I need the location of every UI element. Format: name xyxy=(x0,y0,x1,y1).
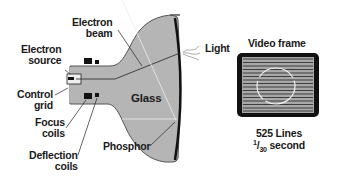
focus-coil-bottom xyxy=(84,93,92,99)
deflection-coil-top xyxy=(95,60,99,64)
deflection-coil-bottom xyxy=(95,93,99,97)
label-line: coils xyxy=(35,128,65,139)
label-glass: Glass xyxy=(131,93,161,104)
label-electron-beam: Electron beam xyxy=(72,17,112,39)
label-line: grid xyxy=(17,100,53,111)
cathode xyxy=(68,77,74,80)
label-light: Light xyxy=(205,43,230,54)
label-focus-coils: Focus coils xyxy=(35,117,65,139)
label-line: source xyxy=(21,55,61,66)
time-denominator: 30 xyxy=(259,146,266,153)
label-phosphor: Phosphor xyxy=(103,141,150,152)
time-unit: second xyxy=(269,139,305,151)
label-electron-source: Electron source xyxy=(21,44,61,66)
label-control-grid: Control grid xyxy=(17,89,53,111)
label-line: coils xyxy=(29,161,78,172)
video-frame-graphic xyxy=(237,53,319,117)
video-frame-title: Video frame xyxy=(248,38,306,49)
light-rays xyxy=(183,46,200,60)
label-deflection-coils: Deflection coils xyxy=(29,150,78,172)
focus-coil-top xyxy=(84,58,92,64)
video-frame-lines: 525 Lines xyxy=(252,128,306,139)
time-numerator: 1 xyxy=(253,139,257,146)
label-line: beam xyxy=(72,28,112,39)
video-frame-time: 1/30 second xyxy=(248,140,310,151)
